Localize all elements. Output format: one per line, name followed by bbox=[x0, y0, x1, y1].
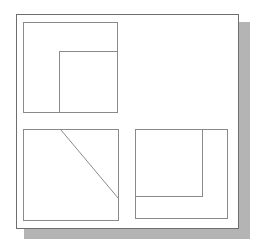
bottom-left-panel bbox=[23, 129, 119, 221]
bottom-right-subbox bbox=[135, 129, 203, 197]
top-left-subbox bbox=[59, 51, 118, 113]
figure-canvas bbox=[0, 0, 257, 248]
